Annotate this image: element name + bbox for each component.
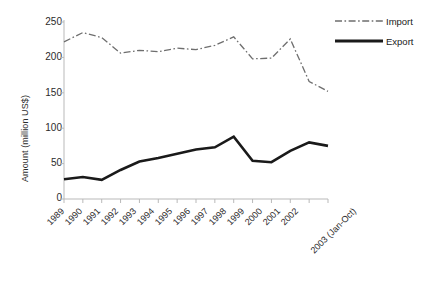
plot-area xyxy=(0,0,433,281)
y-axis-ticks xyxy=(60,22,64,199)
series-line-export xyxy=(64,137,328,180)
axis-lines xyxy=(64,20,328,199)
x-axis-ticks xyxy=(64,199,328,203)
series-line-import xyxy=(64,33,328,92)
line-chart: Amount (million US$) 250 200 150 100 50 … xyxy=(0,0,433,281)
